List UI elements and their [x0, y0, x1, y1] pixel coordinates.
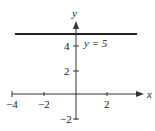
- y-tick-label-4: 4: [64, 40, 70, 52]
- chart-canvas: x y y = 5 −4 −2 2 4 2 −2: [0, 0, 155, 131]
- x-tick-label-neg4: −4: [6, 98, 18, 110]
- line-label: y = 5: [83, 37, 108, 49]
- x-axis-label: x: [146, 88, 152, 100]
- y-tick-label-neg2: −2: [60, 113, 72, 125]
- x-tick-label-neg2: −2: [38, 98, 50, 110]
- x-axis-arrow-icon: [136, 91, 144, 97]
- x-axis: [12, 91, 144, 97]
- x-tick-label-2: 2: [104, 98, 110, 110]
- y-axis-label: y: [71, 7, 77, 19]
- y-axis-arrow-icon: [73, 21, 79, 29]
- y-tick-label-2: 2: [64, 65, 70, 77]
- y-axis: [73, 21, 79, 120]
